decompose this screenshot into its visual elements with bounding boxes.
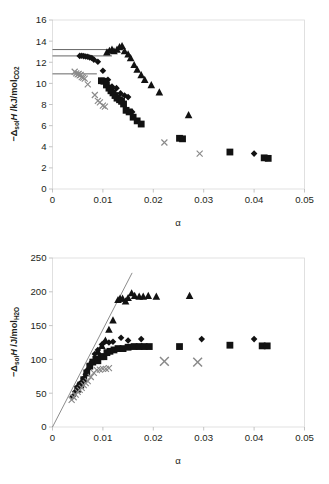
marker-square [179, 135, 186, 142]
marker-diamond [251, 336, 258, 343]
y-axis-title-top: −ΔsolH /kJ/molCO2 [9, 66, 20, 142]
x-tick-label: 0.02 [144, 194, 163, 205]
chart-bottom-svg: 050100150200250 00.010.020.030.040.05 α … [0, 242, 329, 484]
marker-square [138, 121, 145, 128]
data-series-top [72, 42, 272, 162]
chart-top-co2: 0246810121416 00.010.020.030.040.05 α −Δ… [0, 0, 329, 242]
y-tick-label: 2 [41, 162, 46, 173]
chart-top-svg: 0246810121416 00.010.020.030.040.05 α −Δ… [0, 0, 329, 242]
x-tick-label: 0.03 [194, 432, 213, 443]
y-tick-label: 16 [36, 14, 47, 25]
plot-frame-top [53, 20, 305, 189]
marker-triangle [186, 292, 194, 299]
svg-text:−ΔsolH /kJ/molCO2: −ΔsolH /kJ/molCO2 [9, 66, 20, 142]
y-tick-label: 8 [41, 99, 46, 110]
y-title-delta-sub-bottom: sol [13, 356, 20, 365]
marker-x [102, 104, 108, 110]
y-tick-label: 10 [36, 78, 47, 89]
y-axis-ticks-bottom: 050100150200250 [30, 252, 52, 432]
y-tick-label: 12 [36, 57, 47, 68]
data-series-bottom [69, 289, 271, 403]
marker-square [264, 342, 271, 349]
marker-triangle [185, 111, 193, 118]
plot-area-top [53, 20, 305, 189]
x-axis-ticks-bottom: 00.010.020.030.040.05 [50, 427, 314, 443]
x-axis-ticks-top: 00.010.020.030.040.05 [50, 189, 314, 205]
x-tick-label: 0.01 [94, 194, 113, 205]
x-tick-label: 0.03 [194, 194, 213, 205]
marker-square [227, 149, 234, 156]
x-axis-title-bottom: α [175, 455, 181, 466]
x-tick-label: 0.05 [295, 194, 314, 205]
marker-square [146, 343, 153, 350]
x-tick-label: 0 [50, 194, 55, 205]
x-tick-label: 0.02 [144, 432, 163, 443]
y-tick-label: 150 [30, 320, 46, 331]
marker-diamond [118, 334, 125, 341]
marker-triangle [156, 88, 164, 95]
x-tick-label: 0.01 [94, 432, 113, 443]
marker-x [92, 92, 98, 98]
series-triangles [103, 42, 192, 118]
y-title-units-bottom: /J/mol [9, 320, 19, 349]
x-axis-title-top: α [175, 217, 181, 228]
marker-x-large [193, 358, 202, 367]
x-tick-label: 0.04 [245, 432, 264, 443]
series-crosses-large [160, 357, 202, 366]
y-tick-label: 200 [30, 286, 46, 297]
marker-x [197, 151, 203, 157]
x-tick-label: 0.04 [245, 194, 264, 205]
marker-triangle [144, 292, 152, 299]
y-axis-ticks-top: 0246810121416 [36, 14, 53, 194]
marker-diamond [100, 67, 107, 74]
y-tick-label: 250 [30, 252, 46, 263]
marker-square [125, 344, 132, 351]
marker-diamond [198, 336, 205, 343]
marker-x [85, 81, 91, 87]
y-tick-label: 0 [41, 183, 46, 194]
y-tick-label: 6 [41, 120, 46, 131]
marker-square [227, 342, 234, 349]
y-tick-label: 4 [41, 141, 47, 152]
marker-triangle [109, 316, 117, 323]
chart-bottom-h2o: 050100150200250 00.010.020.030.040.05 α … [0, 242, 329, 484]
y-tick-label: 50 [36, 388, 47, 399]
marker-diamond [110, 339, 117, 346]
marker-diamond [125, 337, 132, 344]
marker-x [88, 374, 94, 380]
y-axis-title-bottom: −ΔsolH /J/molH2O [9, 307, 20, 377]
y-title-units-sub-top: CO2 [13, 66, 20, 80]
marker-diamond [251, 150, 258, 157]
marker-diamond [138, 336, 145, 343]
marker-triangle [105, 326, 113, 333]
marker-square [120, 101, 127, 108]
y-title-delta-sub-top: sol [13, 120, 20, 129]
svg-text:−ΔsolH /J/molH2O: −ΔsolH /J/molH2O [9, 307, 20, 377]
y-tick-label: 14 [36, 36, 47, 47]
series-crosses [72, 69, 203, 157]
series-squares [98, 77, 272, 161]
y-title-units-sub-bottom: H2O [13, 307, 20, 320]
y-tick-label: 0 [41, 421, 46, 432]
marker-square [176, 343, 183, 350]
marker-x [100, 103, 106, 109]
marker-x [161, 140, 167, 146]
figure-root: 0246810121416 00.010.020.030.040.05 α −Δ… [0, 0, 329, 484]
x-tick-label: 0 [50, 432, 55, 443]
marker-triangle [147, 81, 155, 88]
y-tick-label: 100 [30, 354, 46, 365]
marker-square [265, 155, 272, 162]
marker-triangle [153, 293, 161, 300]
caption-fragment [0, 470, 329, 484]
marker-x-large [160, 357, 169, 366]
y-title-units-top: /kJ/mol [9, 80, 19, 114]
x-tick-label: 0.05 [295, 432, 314, 443]
